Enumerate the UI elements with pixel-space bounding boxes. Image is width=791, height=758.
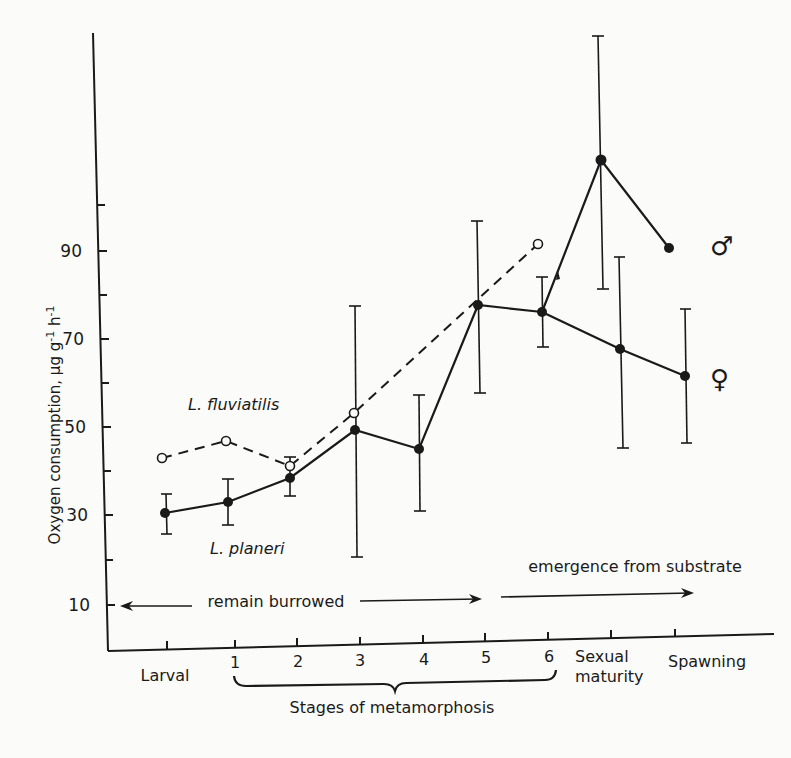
male-point-sexual-maturity [596, 155, 607, 166]
y-axis-title: Oxygen consumption, µg g-1 h-1 [44, 306, 64, 545]
x-label-1: 1 [230, 653, 240, 672]
planeri-point-larval [160, 508, 170, 518]
female-point-spawning [680, 371, 690, 381]
x-label-spawning: Spawning [668, 652, 746, 671]
male-symbol-icon: ♂ [710, 231, 733, 261]
planeri-point-6 [537, 307, 547, 317]
x-label-5: 5 [481, 648, 491, 667]
x-labels: Larval 1 2 3 4 5 6 Sexual maturity Spawn… [140, 647, 746, 686]
x-label-6: 6 [544, 647, 554, 666]
chart-canvas: 10 30 50 70 90 Oxygen consumption, µg g-… [0, 0, 791, 758]
y-tick-30: 30 [66, 505, 88, 525]
fluviatilis-point-2 [286, 462, 295, 471]
fluviatilis-point-1 [222, 437, 231, 446]
y-tick-70: 70 [62, 329, 84, 349]
x-label-larval: Larval [140, 666, 189, 685]
fluviatilis-point-larval [158, 454, 167, 463]
female-symbol-icon: ♀ [710, 364, 729, 394]
planeri-label: L. planeri [210, 539, 285, 558]
planeri-point-5 [473, 300, 483, 310]
x-label-2: 2 [293, 652, 303, 671]
planeri-point-4 [414, 444, 424, 454]
fluviatilis-point-6 [534, 240, 543, 249]
planeri-point-3 [350, 425, 360, 435]
metamorphosis-brace [234, 670, 556, 691]
x-label-maturity: maturity [575, 667, 644, 686]
error-bars [161, 36, 692, 557]
emergence-label: emergence from substrate [528, 557, 742, 576]
female-point-sexual-maturity [615, 344, 625, 354]
series-planeri [165, 160, 685, 513]
y-tick-labels: 10 30 50 70 90 [60, 241, 90, 615]
y-axis-line [93, 33, 108, 651]
fluviatilis-label: L. fluviatilis [188, 395, 279, 414]
planeri-point-2 [285, 473, 295, 483]
x-label-sexual: Sexual [575, 647, 629, 666]
x-group-title: Stages of metamorphosis [290, 698, 495, 717]
y-ticks [98, 205, 115, 605]
remain-burrowed-label: remain burrowed [208, 592, 345, 611]
planeri-points [160, 155, 690, 519]
behaviour-annotations [120, 588, 694, 611]
fluviatilis-point-3 [350, 409, 359, 418]
y-tick-90: 90 [60, 241, 82, 261]
series-fluviatilis [158, 240, 543, 471]
female-line [542, 312, 685, 376]
y-tick-10: 10 [68, 595, 90, 615]
x-label-3: 3 [355, 651, 365, 670]
x-label-4: 4 [419, 650, 429, 669]
male-point-spawning [664, 243, 674, 253]
planeri-point-1 [223, 497, 233, 507]
y-tick-50: 50 [64, 417, 86, 437]
